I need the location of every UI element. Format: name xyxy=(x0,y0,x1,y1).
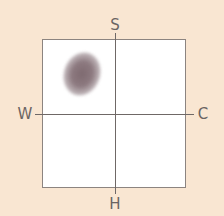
axis-label-left: W xyxy=(17,107,33,122)
axis-label-top: S xyxy=(107,18,123,33)
horizontal-axis xyxy=(35,114,194,115)
axis-label-right: C xyxy=(195,107,211,122)
axis-label-bottom: H xyxy=(107,197,123,212)
